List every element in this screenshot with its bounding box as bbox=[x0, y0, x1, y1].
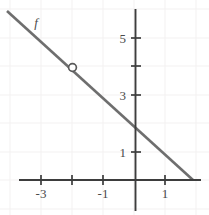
y-tick-label-1: 1 bbox=[120, 145, 127, 160]
y-tick-label-5: 5 bbox=[120, 31, 127, 46]
graph-figure: -3 -1 1 5 3 1 f bbox=[0, 0, 209, 215]
x-tick-label-neg1: -1 bbox=[98, 186, 109, 201]
x-tick-label-pos1: 1 bbox=[162, 186, 169, 201]
x-tick-label-neg3: -3 bbox=[36, 186, 47, 201]
y-tick-label-3: 3 bbox=[120, 88, 127, 103]
open-circle-hole bbox=[69, 64, 77, 72]
graph-canvas: -3 -1 1 5 3 1 f bbox=[0, 0, 209, 215]
